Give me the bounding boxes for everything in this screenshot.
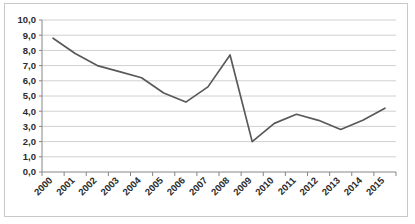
x-axis-tick-label: 2002 xyxy=(76,175,99,198)
x-axis-tick-label: 2009 xyxy=(231,175,254,198)
x-axis-tick-label: 2005 xyxy=(142,174,165,197)
y-axis-tick-label: 4,0 xyxy=(23,106,36,117)
x-axis-tick-label: 2007 xyxy=(187,175,210,198)
y-axis-tick-label: 3,0 xyxy=(23,121,36,132)
x-axis-tick-label: 2000 xyxy=(32,175,55,198)
y-axis-tick-label: 1,0 xyxy=(23,151,36,162)
y-axis-tick-label: 8,0 xyxy=(23,45,36,56)
y-axis-tick-label: 6,0 xyxy=(23,75,36,86)
y-axis-tick-label: 5,0 xyxy=(23,90,36,101)
x-axis-tick-label: 2011 xyxy=(275,174,298,197)
y-axis-tick-label: 7,0 xyxy=(23,60,36,71)
x-axis-tick-label: 2012 xyxy=(297,175,320,198)
x-axis-tick-label: 2010 xyxy=(253,175,276,198)
y-axis-tick-label: 0,0 xyxy=(23,166,36,177)
x-axis-tick-label: 2015 xyxy=(364,174,387,197)
x-axis-tick-label: 2013 xyxy=(319,175,342,198)
x-axis-tick-label: 2008 xyxy=(209,175,232,198)
y-axis-labels-group: 0,01,02,03,04,05,06,07,08,09,010,0 xyxy=(18,14,37,177)
x-axis-tick-label: 2001 xyxy=(54,174,77,197)
y-axis-tick-label: 10,0 xyxy=(18,14,37,25)
x-axis-tick-label: 2014 xyxy=(341,174,364,197)
x-axis-tick-label: 2003 xyxy=(98,175,121,198)
x-axis-labels-group: 2000200120022003200420052006200720082009… xyxy=(32,174,387,197)
y-axis-tick-label: 9,0 xyxy=(23,30,36,41)
line-chart: 0,01,02,03,04,05,06,07,08,09,010,0 20002… xyxy=(0,0,415,224)
y-axis-tick-label: 2,0 xyxy=(23,136,36,147)
x-axis-tick-marks xyxy=(42,172,396,176)
gridlines-group xyxy=(42,20,396,157)
x-axis-tick-label: 2004 xyxy=(120,174,143,197)
x-axis-tick-label: 2006 xyxy=(164,175,187,198)
